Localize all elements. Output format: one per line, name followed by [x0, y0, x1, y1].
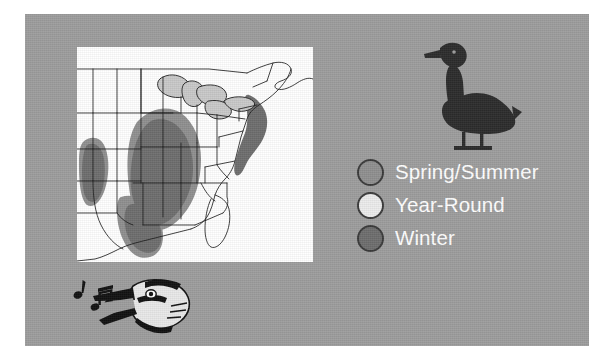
goose-silhouette: [418, 36, 522, 154]
seasonal-range-legend: Spring/Summer Year-Round Winter: [357, 156, 587, 255]
map-card: [77, 47, 313, 262]
legend-label-spring-summer: Spring/Summer: [395, 162, 539, 183]
us-range-map-svg: [77, 47, 313, 262]
range-map-figure: Spring/Summer Year-Round Winter: [0, 0, 613, 362]
singing-bird-head: [71, 270, 193, 346]
legend-swatch-year-round: [357, 192, 384, 219]
legend-item-spring-summer[interactable]: Spring/Summer: [357, 156, 587, 189]
legend-label-year-round: Year-Round: [395, 195, 505, 216]
legend-label-winter: Winter: [395, 228, 455, 249]
poster-panel: Spring/Summer Year-Round Winter: [25, 14, 589, 346]
legend-swatch-winter: [357, 225, 384, 252]
legend-swatch-spring-summer: [357, 159, 384, 186]
legend-item-winter[interactable]: Winter: [357, 222, 587, 255]
singing-bird-icon: [71, 270, 193, 346]
music-note-single: [72, 280, 85, 300]
legend-item-year-round[interactable]: Year-Round: [357, 189, 587, 222]
goose-icon: [418, 36, 522, 154]
